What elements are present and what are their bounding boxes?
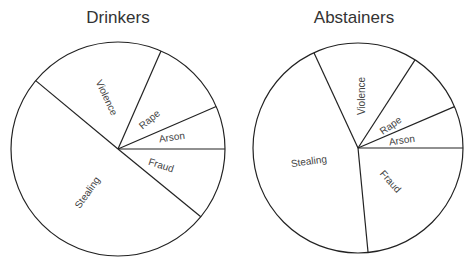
pie-canvas: ArsonRapeViolenceStealingFraudArsonRapeV…: [0, 0, 472, 271]
slice-label-violence: Violence: [356, 76, 367, 115]
drinkers-pie: ArsonRapeViolenceStealingFraud: [11, 42, 225, 256]
abstainers-pie: ArsonRapeViolenceStealingFraud: [253, 43, 463, 253]
